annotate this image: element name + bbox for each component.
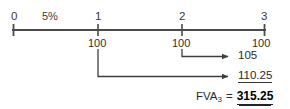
result-line: FVA3 = 315.25 bbox=[196, 89, 273, 105]
period-label-2: 2 bbox=[179, 11, 185, 22]
compounded-value-105: 105 bbox=[238, 50, 257, 61]
period-label-1: 1 bbox=[95, 11, 101, 22]
result-equals: = bbox=[226, 90, 233, 102]
connector-period2-to-105 bbox=[182, 49, 228, 57]
compounded-value-110-25: 110.25 bbox=[238, 70, 272, 83]
interest-rate-label: 5% bbox=[42, 11, 58, 22]
connector-period1-to-110 bbox=[98, 49, 228, 77]
period-label-3: 3 bbox=[261, 11, 267, 22]
result-value: 315.25 bbox=[237, 89, 274, 105]
fva-timeline-diagram: 0 1 2 3 5% 100 100 100 105 110.25 FVA3 =… bbox=[0, 0, 290, 109]
period-label-0: 0 bbox=[11, 11, 17, 22]
cash-flow-label-period1: 100 bbox=[88, 38, 106, 49]
cash-flow-label-period2: 100 bbox=[172, 38, 190, 49]
result-symbol: FVA bbox=[196, 90, 218, 102]
result-subscript: 3 bbox=[218, 95, 222, 104]
cash-flow-label-period3: 100 bbox=[252, 38, 270, 49]
